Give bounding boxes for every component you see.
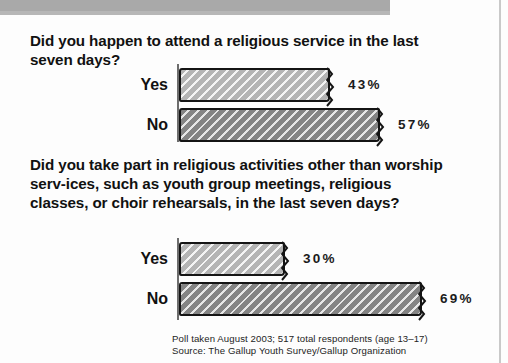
chart-2-bar-yes <box>179 242 285 276</box>
bar-cap-icon <box>418 281 427 321</box>
chart-2-value-no: 69% <box>440 291 474 306</box>
chart-2-label-no: No <box>8 290 168 308</box>
bar-cap-icon <box>281 241 290 281</box>
chart-2-bar-no <box>179 282 422 316</box>
chart-1-label-yes: Yes <box>8 76 168 94</box>
chart-1-value-no: 57% <box>398 117 432 132</box>
header-band-shade <box>0 11 390 15</box>
chart-2-label-yes: Yes <box>8 250 168 268</box>
footnote-poll-info: Poll taken August 2003; 517 total respon… <box>172 333 428 345</box>
bar-cap-icon <box>326 67 335 107</box>
footnotes: Poll taken August 2003; 517 total respon… <box>172 333 428 358</box>
poll-figure: Did you happen to attend a religious ser… <box>0 0 508 363</box>
question-2-text: Did you take part in religious activitie… <box>30 155 445 212</box>
footnote-source: Source: The Gallup Youth Survey/Gallup O… <box>172 345 428 357</box>
chart-1-bar-yes <box>179 68 330 102</box>
right-margin-rule <box>499 0 501 363</box>
bar-cap-icon <box>376 107 385 147</box>
chart-1-label-no: No <box>8 116 168 134</box>
chart-1-value-yes: 43% <box>348 77 382 92</box>
question-1-text: Did you happen to attend a religious ser… <box>30 31 440 69</box>
chart-2-value-yes: 30% <box>303 251 337 266</box>
chart-1-bar-no <box>179 108 380 142</box>
